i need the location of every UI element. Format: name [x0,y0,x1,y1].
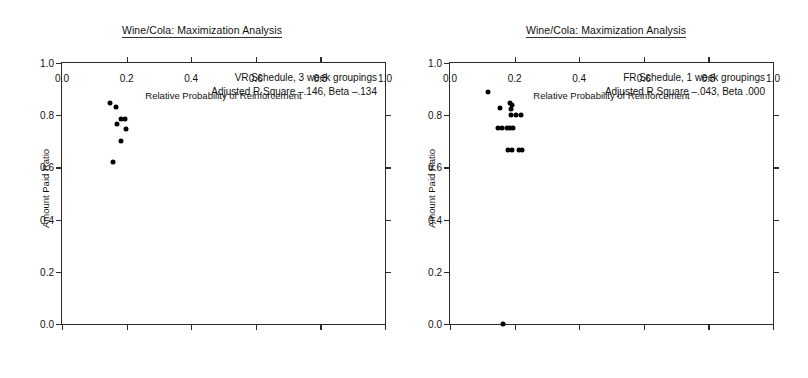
x-axis-title-right: Relative Probability of Reinforcement [450,90,773,101]
y-tick-right-1_0 [444,63,450,64]
y-axis-title-right: Amount Paid Ratio [426,149,437,228]
y-tick-right-left-0_8 [385,115,391,116]
x-tick-right-0_6 [644,324,645,330]
y-tick-rightedge-right-0_6 [773,167,779,168]
y-tick-left-0_2 [56,272,62,273]
chart-title-left: Wine/Cola: Maximization Analysis [0,24,404,36]
y-ticklabel-right-0_0: 0.0 [408,319,442,330]
data-point [510,126,515,131]
x-tick-left-1_0 [385,324,386,330]
x-tick-top-right-0_2 [515,57,516,63]
x-tick-top-right-0_8 [708,57,709,63]
y-ticklabel-left-0_2: 0.2 [20,266,54,277]
y-tick-left-0_8 [56,115,62,116]
x-tick-right-0_8 [708,324,709,330]
x-ticklabel-left-0_2: 0.2 [107,73,147,84]
data-point [107,100,112,105]
data-point [508,107,513,112]
x-tick-right-1_0 [773,324,774,330]
y-ticklabel-right-0_2: 0.2 [408,266,442,277]
data-point [501,322,506,327]
chart-panel-left: Wine/Cola: Maximization Analysis 1.0 0.8… [0,0,404,378]
x-tick-left-0_0 [62,324,63,330]
data-point [115,121,120,126]
y-tick-right-0_8 [444,115,450,116]
annotation-right-line-1: FR Schedule, 1 week groupings [605,71,765,85]
y-tick-right-0_4 [444,220,450,221]
x-tick-right-0_4 [579,324,580,330]
x-ticklabel-right-0_0: 0.0 [430,73,470,84]
chart-panel-right: Wine/Cola: Maximization Analysis 1.0 0.8… [404,0,808,378]
y-ticklabel-right-1_0: 1.0 [408,58,442,69]
y-ticklabel-left-1_0: 1.0 [20,58,54,69]
x-ticklabel-right-0_4: 0.4 [559,73,599,84]
y-tick-right-0_6 [444,167,450,168]
x-ticklabel-right-0_2: 0.2 [495,73,535,84]
x-axis-title-left: Relative Probability of Reinforcement [62,90,385,101]
data-point [111,159,116,164]
plot-area-left: 1.0 0.8 0.6 0.4 0.2 0.0 0.0 0.2 0.4 [61,62,386,325]
annotation-left-line-1: VR Schedule, 3 week groupings [211,71,377,85]
y-axis-title-left: Amount Paid Ratio [40,149,51,228]
y-tick-rightedge-right-0_8 [773,115,779,116]
x-tick-left-0_6 [256,324,257,330]
y-tick-left-1_0 [56,63,62,64]
data-point [124,126,129,131]
y-tick-left-0_4 [56,220,62,221]
x-tick-top-left-0_2 [127,57,128,63]
data-point [113,104,118,109]
x-tick-top-left-0_4 [191,57,192,63]
data-point [122,117,127,122]
y-tick-rightedge-right-0_4 [773,220,779,221]
chart-title-right-text: Wine/Cola: Maximization Analysis [526,24,686,38]
chart-title-left-text: Wine/Cola: Maximization Analysis [122,24,282,38]
y-tick-rightedge-right-0_2 [773,272,779,273]
y-tick-left-0_6 [56,167,62,168]
y-tick-right-left-0_6 [385,167,391,168]
x-tick-left-0_2 [127,324,128,330]
y-ticklabel-left-0_8: 0.8 [20,110,54,121]
x-ticklabel-left-0_4: 0.4 [171,73,211,84]
y-ticklabel-right-0_8: 0.8 [408,110,442,121]
y-tick-right-left-0_2 [385,272,391,273]
figure-container: Wine/Cola: Maximization Analysis 1.0 0.8… [0,0,808,378]
x-tick-right-0_0 [450,324,451,330]
x-ticklabel-left-0_0: 0.0 [42,73,82,84]
x-tick-top-left-0_6 [256,57,257,63]
chart-title-right: Wine/Cola: Maximization Analysis [404,24,808,36]
x-tick-left-0_4 [191,324,192,330]
x-tick-top-right-0_4 [579,57,580,63]
data-point [510,148,515,153]
x-tick-left-0_8 [320,324,321,330]
data-point [498,106,503,111]
x-tick-top-left-0_8 [320,57,321,63]
x-tick-right-0_2 [515,324,516,330]
data-point [119,139,124,144]
y-tick-right-0_2 [444,272,450,273]
data-point [513,113,518,118]
x-tick-top-right-0_6 [644,57,645,63]
plot-area-right: 1.0 0.8 0.6 0.4 0.2 0.0 0.0 0.2 0.4 0.6 [449,62,774,325]
y-ticklabel-left-0_0: 0.0 [20,319,54,330]
data-point [519,148,524,153]
y-tick-right-left-0_4 [385,220,391,221]
data-point [519,113,524,118]
